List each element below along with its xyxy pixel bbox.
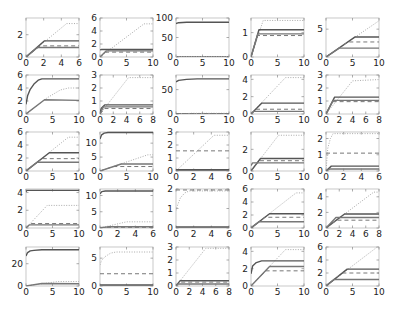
x-tick-label: 5	[50, 287, 56, 297]
x-tick-label: 10	[298, 229, 310, 239]
axes-frame	[326, 75, 379, 114]
y-tick-label: 3	[91, 70, 97, 80]
x-tick-label: 4	[132, 229, 138, 239]
axes-frame	[176, 132, 229, 171]
x-tick-label: 2	[115, 229, 121, 239]
x-tick-label: 6	[363, 229, 369, 239]
series-dotted	[100, 252, 153, 265]
y-tick-label: 5	[91, 152, 97, 162]
y-tick-label: 3	[317, 70, 323, 80]
series-solid-lower	[251, 163, 304, 166]
y-tick-label: 0	[242, 166, 248, 176]
x-tick-label: 5	[350, 287, 356, 297]
axes-frame	[251, 75, 304, 114]
x-tick-label: 10	[73, 115, 85, 125]
x-tick-label: 6	[226, 229, 232, 239]
x-tick-label: 0	[323, 115, 329, 125]
x-tick-label: 10	[147, 58, 159, 68]
x-tick-label: 5	[350, 58, 356, 68]
y-tick-label: 2	[242, 264, 248, 274]
y-tick-label: 0	[167, 109, 173, 119]
y-tick-label: 0	[167, 223, 173, 233]
x-tick-label: 0	[248, 287, 254, 297]
x-tick-label: 0	[323, 229, 329, 239]
axes-frame	[251, 18, 304, 57]
x-tick-label: 2	[191, 172, 197, 182]
subplot-r3c5: 0246012	[317, 132, 382, 182]
series-dotted	[26, 137, 79, 171]
x-tick-label: 10	[223, 58, 235, 68]
y-tick-label: 2	[167, 255, 173, 265]
x-tick-label: 0	[23, 115, 29, 125]
x-tick-label: 0	[248, 58, 254, 68]
x-tick-label: 5	[275, 58, 281, 68]
axes-frame	[251, 132, 304, 171]
subplot-r2c3: 0510050	[162, 75, 235, 125]
y-tick-label: 10	[86, 138, 98, 148]
y-tick-label: 0	[317, 166, 323, 176]
y-tick-label: 2	[317, 208, 323, 218]
y-tick-label: 4	[17, 83, 23, 93]
x-tick-label: 10	[73, 172, 85, 182]
y-tick-label: 1	[167, 204, 173, 214]
y-tick-label: 4	[317, 192, 323, 202]
series-dotted	[176, 191, 229, 211]
subplot-r4c3: 0246012	[167, 184, 232, 239]
axes-frame	[26, 189, 79, 228]
y-tick-label: 1	[317, 150, 323, 160]
x-tick-label: 4	[350, 115, 356, 125]
subplot-r1c2: 05100246	[91, 13, 159, 68]
x-tick-label: 10	[298, 58, 310, 68]
axes-frame	[176, 189, 229, 228]
axes-frame	[100, 247, 153, 286]
y-tick-label: 0	[17, 281, 23, 291]
axes-frame	[26, 247, 79, 286]
series-solid-upper	[251, 261, 304, 274]
figure-canvas: 0246020510024605100501000510010510050510…	[0, 0, 396, 311]
x-tick-label: 8	[376, 229, 382, 239]
x-tick-label: 5	[50, 229, 56, 239]
x-tick-label: 2	[191, 229, 197, 239]
x-tick-label: 8	[376, 115, 382, 125]
y-tick-label: 100	[156, 13, 173, 23]
x-tick-label: 0	[323, 287, 329, 297]
y-tick-label: 0	[167, 281, 173, 291]
y-tick-label: 0	[242, 223, 248, 233]
y-tick-label: 0	[91, 223, 97, 233]
x-tick-label: 5	[124, 287, 130, 297]
x-tick-label: 0	[173, 58, 179, 68]
series-dotted	[251, 135, 304, 171]
x-tick-label: 2	[336, 229, 342, 239]
y-tick-label: 10	[86, 191, 98, 201]
y-tick-label: 0	[167, 52, 173, 62]
axes-frame	[100, 132, 153, 171]
y-tick-label: 0	[242, 281, 248, 291]
series-solid-upper	[326, 269, 379, 286]
x-tick-label: 10	[73, 229, 85, 239]
x-tick-label: 5	[200, 58, 206, 68]
y-tick-label: 0	[317, 223, 323, 233]
subplot-r1c5: 051005	[317, 18, 385, 68]
y-tick-label: 50	[162, 85, 174, 95]
y-tick-label: 1	[242, 28, 248, 38]
subplot-r5c3: 024680123	[167, 242, 232, 297]
series-solid-lower	[26, 48, 79, 57]
subplot-r3c3: 02460123	[167, 127, 232, 182]
y-tick-label: 2	[91, 39, 97, 49]
subplot-r2c5: 024680123	[317, 70, 382, 125]
y-tick-label: 2	[242, 210, 248, 220]
subplot-r3c1: 05100246	[17, 127, 85, 182]
x-tick-label: 4	[208, 172, 214, 182]
y-tick-label: 0	[317, 281, 323, 291]
y-tick-label: 1	[91, 96, 97, 106]
x-tick-label: 2	[110, 115, 116, 125]
series-dotted	[251, 20, 304, 57]
x-tick-label: 2	[341, 172, 347, 182]
y-tick-label: 0	[17, 166, 23, 176]
y-tick-label: 4	[317, 255, 323, 265]
x-tick-label: 5	[50, 172, 56, 182]
y-tick-label: 5	[91, 253, 97, 263]
x-tick-label: 5	[50, 115, 56, 125]
x-tick-label: 6	[376, 172, 382, 182]
subplot-r4c4: 05100246	[242, 184, 310, 239]
